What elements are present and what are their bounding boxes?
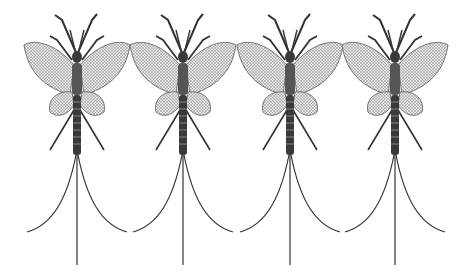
- mayfly-illustration-4: [340, 0, 450, 271]
- mayfly-illustration-3: [235, 0, 345, 271]
- mayfly-illustration-2: [128, 0, 238, 271]
- mayfly-illustration-1: [22, 0, 132, 271]
